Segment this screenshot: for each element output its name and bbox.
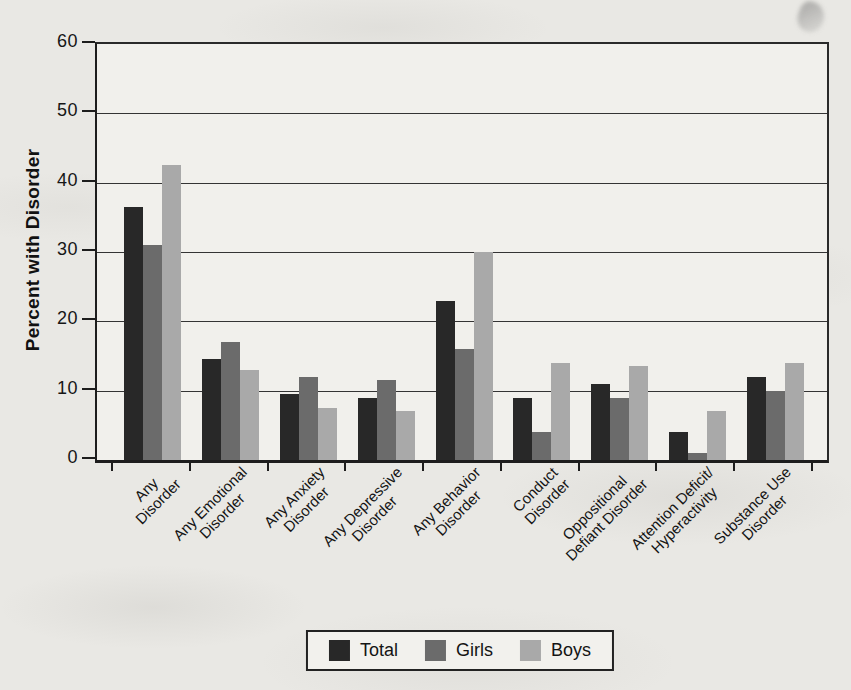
x-label-any-behavior-disorder: Any Behavior Disorder — [409, 464, 495, 550]
bar-group-any-disorder — [114, 44, 192, 460]
bar-total-conduct-disorder — [513, 398, 532, 460]
y-tick-60 — [82, 41, 95, 43]
bar-group-oppositional-defiant-disorder — [581, 44, 659, 460]
bar-group-substance-use-disorder — [736, 44, 814, 460]
y-tick-40 — [82, 180, 95, 182]
bar-boys-any-depressive-disorder — [396, 411, 415, 460]
y-tick-10 — [82, 388, 95, 390]
bar-group-any-emotional-disorder — [192, 44, 270, 460]
x-label-any-emotional-disorder: Any Emotional Disorder — [170, 464, 262, 556]
y-tick-label-60: 60 — [30, 31, 78, 52]
bar-total-any-emotional-disorder — [202, 359, 221, 460]
bar-boys-any-behavior-disorder — [474, 252, 493, 460]
x-tick-1 — [189, 461, 191, 471]
y-tick-label-40: 40 — [30, 170, 78, 191]
bar-girls-attention-deficit-hyperactivity — [688, 453, 707, 460]
bar-girls-oppositional-defiant-disorder — [610, 398, 629, 460]
bar-group-any-anxiety-disorder — [270, 44, 348, 460]
bars-layer — [97, 44, 827, 460]
y-tick-20 — [82, 318, 95, 320]
y-tick-0 — [82, 457, 95, 459]
x-tick-4 — [422, 461, 424, 471]
bar-boys-any-anxiety-disorder — [318, 408, 337, 460]
legend-item-total: Total — [329, 640, 398, 661]
bar-total-any-behavior-disorder — [436, 301, 455, 460]
bar-group-any-depressive-disorder — [347, 44, 425, 460]
bar-girls-conduct-disorder — [532, 432, 551, 460]
x-tick-0 — [111, 461, 113, 471]
scan-artifact — [794, 0, 829, 36]
x-tick-5 — [500, 461, 502, 471]
scanned-page: Percent with Disorder 0102030405060 Any … — [0, 0, 851, 690]
bar-total-any-depressive-disorder — [358, 398, 377, 460]
legend-swatch-total — [329, 640, 350, 661]
legend-item-girls: Girls — [425, 640, 493, 661]
bar-boys-substance-use-disorder — [785, 363, 804, 460]
legend-item-boys: Boys — [520, 640, 591, 661]
legend-swatch-boys — [520, 640, 541, 661]
bar-girls-any-disorder — [143, 245, 162, 460]
x-tick-8 — [733, 461, 735, 471]
bar-group-any-behavior-disorder — [425, 44, 503, 460]
bar-total-oppositional-defiant-disorder — [591, 384, 610, 460]
x-label-substance-use-disorder: Substance Use Disorder — [711, 464, 806, 559]
bar-girls-any-behavior-disorder — [455, 349, 474, 460]
bar-boys-any-disorder — [162, 165, 181, 460]
x-label-conduct-disorder: Conduct Disorder — [510, 464, 573, 527]
x-label-any-depressive-disorder: Any Depressive Disorder — [320, 464, 418, 562]
bar-total-substance-use-disorder — [747, 377, 766, 460]
bar-girls-any-depressive-disorder — [377, 380, 396, 460]
y-tick-50 — [82, 110, 95, 112]
y-tick-label-10: 10 — [30, 378, 78, 399]
x-tick-3 — [344, 461, 346, 471]
y-tick-label-30: 30 — [30, 239, 78, 260]
bar-boys-conduct-disorder — [551, 363, 570, 460]
y-tick-label-20: 20 — [30, 308, 78, 329]
x-tick-9 — [811, 461, 813, 471]
y-tick-30 — [82, 249, 95, 251]
bar-boys-any-emotional-disorder — [240, 370, 259, 460]
y-tick-label-0: 0 — [30, 447, 78, 468]
legend-label-girls: Girls — [456, 640, 493, 661]
y-tick-label-50: 50 — [30, 100, 78, 121]
x-tick-6 — [578, 461, 580, 471]
bar-girls-any-anxiety-disorder — [299, 377, 318, 460]
bar-total-any-anxiety-disorder — [280, 394, 299, 460]
bar-boys-oppositional-defiant-disorder — [629, 366, 648, 460]
bar-total-attention-deficit-hyperactivity — [669, 432, 688, 460]
plot-area — [95, 42, 829, 463]
bar-girls-substance-use-disorder — [766, 391, 785, 460]
x-tick-2 — [267, 461, 269, 471]
bar-group-conduct-disorder — [503, 44, 581, 460]
x-tick-7 — [655, 461, 657, 471]
legend-swatch-girls — [425, 640, 446, 661]
legend-label-boys: Boys — [551, 640, 591, 661]
bar-total-any-disorder — [124, 207, 143, 460]
legend: TotalGirlsBoys — [306, 630, 614, 671]
legend-label-total: Total — [360, 640, 398, 661]
bar-group-attention-deficit-hyperactivity — [658, 44, 736, 460]
bar-girls-any-emotional-disorder — [221, 342, 240, 460]
x-label-any-disorder: Any Disorder — [121, 464, 184, 527]
bar-boys-attention-deficit-hyperactivity — [707, 411, 726, 460]
